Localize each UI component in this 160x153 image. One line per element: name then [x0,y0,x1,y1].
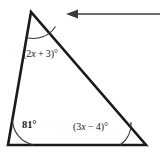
bottom-left-angle-text: 81° [22,119,36,130]
apex-angle-label: (2x + 3)° [23,49,58,59]
bottom-right-angle-text: (3x − 4)° [73,121,108,132]
apex-angle-text: (2x + 3)° [23,48,58,59]
callout-arrow-head [66,10,78,19]
bottom-right-angle-label: (3x − 4)° [73,122,108,132]
bottom-left-angle-label: 81° [22,120,36,131]
triangle-angle-figure: (2x + 3)° 81° (3x − 4)° [0,0,160,153]
